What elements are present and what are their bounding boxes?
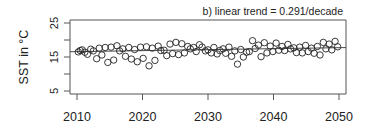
data-point	[128, 56, 134, 62]
data-point	[108, 44, 114, 50]
y-axis: 51525	[48, 17, 70, 94]
data-point	[311, 50, 317, 56]
data-point	[273, 40, 279, 46]
y-tick-label: 15	[48, 51, 60, 63]
data-point	[175, 51, 181, 57]
data-point	[261, 40, 267, 46]
x-tick-label: 2030	[194, 110, 222, 124]
data-point	[137, 44, 143, 50]
data-point	[334, 44, 340, 50]
chart-title: b) linear trend = 0.291/decade	[203, 5, 344, 17]
data-point	[126, 44, 132, 50]
data-point	[320, 39, 326, 45]
data-point	[131, 46, 137, 52]
data-point	[258, 53, 264, 59]
data-point	[110, 57, 116, 63]
data-point	[173, 39, 179, 45]
data-point	[102, 44, 108, 50]
x-tick-label: 2020	[129, 110, 157, 124]
data-point	[96, 45, 102, 51]
y-axis-label: SST in °C	[17, 30, 31, 85]
data-point	[249, 37, 255, 43]
data-point	[317, 52, 323, 58]
data-point	[181, 50, 187, 56]
data-point	[122, 53, 128, 59]
data-point	[302, 42, 308, 48]
plot-area	[70, 20, 346, 94]
data-point	[134, 59, 140, 65]
data-point	[270, 48, 276, 54]
data-point	[99, 52, 105, 58]
data-point	[140, 55, 146, 61]
x-tick-label: 2050	[325, 110, 353, 124]
data-point	[105, 59, 111, 65]
data-point	[240, 54, 246, 60]
data-point	[314, 43, 320, 49]
data-point	[179, 41, 185, 47]
data-point	[264, 50, 270, 56]
data-point	[164, 52, 170, 58]
data-point	[146, 63, 152, 69]
data-point	[232, 48, 238, 54]
y-tick-label: 25	[48, 17, 60, 29]
x-axis: 20102020203020402050	[63, 94, 353, 124]
scatter-chart: b) linear trend = 0.291/decade 51525 201…	[0, 0, 369, 138]
data-point	[234, 61, 240, 67]
data-point	[167, 41, 173, 47]
x-tick-label: 2010	[63, 110, 91, 124]
y-tick-label: 5	[48, 88, 60, 94]
data-point	[152, 57, 158, 63]
x-tick-label: 2040	[260, 110, 288, 124]
data-point	[143, 44, 149, 50]
data-point	[323, 46, 329, 52]
data-point	[299, 50, 305, 56]
data-point	[169, 50, 175, 56]
data-points	[75, 37, 341, 69]
